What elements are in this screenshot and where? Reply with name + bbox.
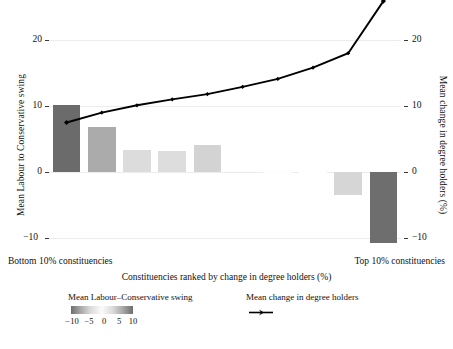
line-marker-2 — [100, 111, 104, 115]
x-axis-title: Constituencies ranked by change in degre… — [0, 272, 453, 282]
x-category-left: Bottom 10% constituencies — [8, 256, 113, 266]
chart-legend: Mean Labour–Conservative swing Mean chan… — [0, 292, 453, 349]
legend-gradient-swatch — [71, 306, 133, 314]
line-marker-4 — [170, 97, 174, 101]
line-series-degree-holders — [0, 0, 453, 260]
chart-figure: Mean Labour to Conservative swing 20 10 … — [0, 0, 453, 349]
legend-line-title: Mean change in degree holders — [246, 292, 358, 302]
legend-gradient-tick-10: 10 — [123, 316, 143, 326]
line-marker-5 — [205, 92, 209, 96]
line-marker-1 — [64, 120, 69, 125]
line-marker-3 — [135, 103, 139, 107]
x-category-right: Top 10% constituencies — [354, 256, 445, 266]
legend-bar-title: Mean Labour–Conservative swing — [68, 292, 192, 302]
line-path — [67, 1, 384, 122]
line-marker-6 — [241, 85, 245, 89]
legend-line-marker-icon — [248, 308, 274, 317]
plot-area — [0, 0, 453, 260]
